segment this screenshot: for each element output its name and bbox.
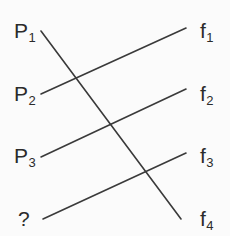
right-node-f2-subscript: 2 [206,93,213,108]
right-node-f3-base: f [200,144,206,167]
matching-diagram: P1 P2 P3 ? f1 f2 f3 f4 [0,0,230,236]
right-node-f1-subscript: 1 [206,30,213,45]
right-node-f2: f2 [200,83,213,104]
right-node-f3-subscript: 3 [206,155,213,170]
right-node-f4-subscript: 4 [206,218,213,233]
left-node-p1: P1 [14,20,35,41]
left-node-unknown: ? [18,208,30,229]
left-node-p1-subscript: 1 [29,30,36,45]
connection-line-p3-f2 [41,89,186,157]
right-node-f4: f4 [200,208,213,229]
left-node-p3-subscript: 3 [29,155,36,170]
left-node-unknown-base: ? [18,207,30,230]
connection-line-unknown-f3 [43,153,186,219]
left-node-p2-subscript: 2 [29,93,36,108]
left-node-p3: P3 [14,145,35,166]
left-node-p1-base: P [14,19,28,42]
right-node-f4-base: f [200,207,206,230]
left-node-p3-base: P [14,144,28,167]
right-node-f1-base: f [200,19,206,42]
right-node-f2-base: f [200,82,206,105]
right-node-f3: f3 [200,145,213,166]
left-node-p2: P2 [14,83,35,104]
left-node-p2-base: P [14,82,28,105]
right-node-f1: f1 [200,20,213,41]
